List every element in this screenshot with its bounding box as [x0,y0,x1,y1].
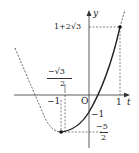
top-value-label: 1+2√3 [54,23,81,31]
vertex-x-denominator: 2 [60,80,65,88]
y-axis-label: y [93,9,98,18]
one-x-label: 1 [116,98,122,107]
min-numerator: −5 [96,123,108,131]
min-denominator: 2 [101,134,106,142]
x-axis-label: t [127,98,131,107]
neg-one-x-label: −1 [47,97,60,106]
origin-label: O [81,97,88,106]
curve-dashed-left [15,48,61,132]
vertex-x-numerator: −√3 [48,68,65,76]
curve-dashed-right [120,10,125,27]
point-min [59,130,63,134]
point-max [118,25,122,29]
neg-one-y-label: −1 [91,110,104,119]
y-axis-arrow-icon [87,10,92,16]
